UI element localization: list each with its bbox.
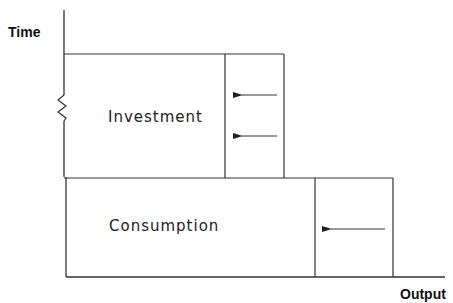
consumption-label: Consumption (109, 217, 219, 235)
y-axis (58, 10, 66, 277)
diagram-canvas (0, 0, 453, 303)
investment-label: Investment (108, 108, 203, 126)
x-axis-label: Output (400, 286, 446, 302)
y-axis-label: Time (8, 24, 40, 40)
axis-break-icon (58, 95, 66, 121)
